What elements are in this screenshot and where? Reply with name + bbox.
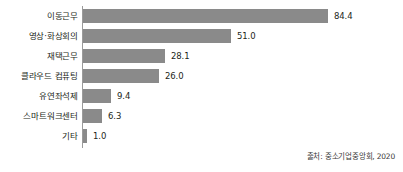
bar-row: 영상·화상회의 51.0 [0, 26, 403, 46]
bar-row: 클라우드 컴퓨팅 26.0 [0, 66, 403, 86]
bar-track [83, 89, 111, 103]
bar-row: 스마트워크센터 6.3 [0, 106, 403, 126]
bar-track [83, 49, 165, 63]
bar-value-label: 6.3 [108, 110, 121, 122]
bar-value-label: 9.4 [117, 90, 130, 102]
bar[interactable] [83, 109, 102, 123]
category-label: 기타 [0, 131, 78, 142]
bar-track [83, 129, 87, 143]
bar-row: 기타 1.0 [0, 126, 403, 146]
bar-track [83, 69, 159, 83]
bar[interactable] [83, 89, 111, 103]
bar-value-label: 26.0 [165, 70, 184, 82]
bar[interactable] [83, 69, 159, 83]
bar[interactable] [83, 49, 165, 63]
bar[interactable] [83, 9, 328, 23]
bar-value-label: 84.4 [334, 10, 353, 22]
bar-row: 이동근무 84.4 [0, 6, 403, 26]
bar-track [83, 109, 102, 123]
bar-track [83, 29, 231, 43]
category-label: 이동근무 [0, 11, 78, 22]
source-note: 출처: 중소기업중앙회, 2020 [307, 152, 395, 162]
category-label: 영상·화상회의 [0, 31, 78, 42]
bar-chart: 이동근무 84.4 영상·화상회의 51.0 재택근무 28.1 클라우드 컴퓨… [0, 0, 403, 172]
bar[interactable] [83, 129, 87, 143]
bar-value-label: 28.1 [171, 50, 190, 62]
category-label: 클라우드 컴퓨팅 [0, 71, 78, 82]
bar[interactable] [83, 29, 231, 43]
bar-track [83, 9, 328, 23]
plot-area: 이동근무 84.4 영상·화상회의 51.0 재택근무 28.1 클라우드 컴퓨… [0, 0, 403, 148]
bar-value-label: 1.0 [93, 130, 106, 142]
bar-row: 유연좌석제 9.4 [0, 86, 403, 106]
category-label: 스마트워크센터 [0, 111, 78, 122]
bar-value-label: 51.0 [237, 30, 256, 42]
category-label: 유연좌석제 [0, 91, 78, 102]
category-label: 재택근무 [0, 51, 78, 62]
bar-row: 재택근무 28.1 [0, 46, 403, 66]
